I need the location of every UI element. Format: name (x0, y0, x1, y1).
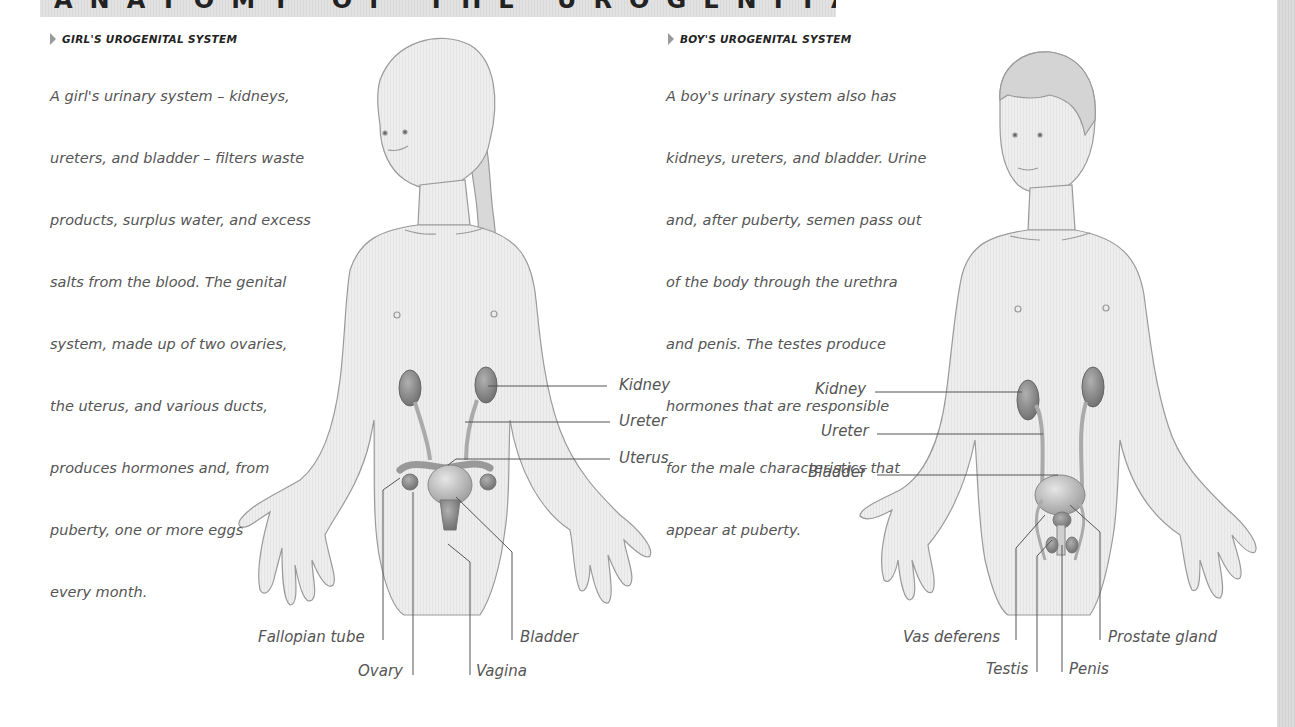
label-girl-vagina: Vagina (476, 662, 527, 680)
anatomy-illustrations (0, 0, 1295, 727)
label-boy-prostate-gland: Prostate gland (1108, 628, 1217, 646)
label-boy-bladder: Bladder (808, 463, 866, 481)
label-girl-uterus: Uterus (619, 449, 669, 467)
label-girl-ovary: Ovary (358, 662, 403, 680)
label-boy-vas-deferens: Vas deferens (903, 628, 1000, 646)
label-girl-fallopian-tube: Fallopian tube (258, 628, 365, 646)
label-boy-kidney: Kidney (815, 380, 866, 398)
label-girl-ureter: Ureter (619, 412, 667, 430)
label-boy-penis: Penis (1069, 660, 1109, 678)
label-boy-ureter: Ureter (821, 422, 869, 440)
label-girl-kidney: Kidney (619, 376, 670, 394)
label-girl-bladder: Bladder (520, 628, 578, 646)
label-boy-testis: Testis (986, 660, 1028, 678)
